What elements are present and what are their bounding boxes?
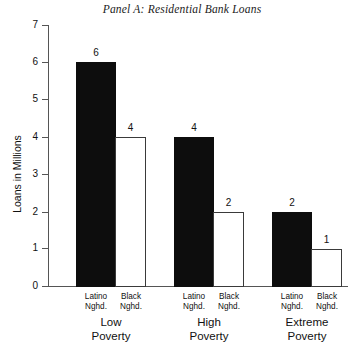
bar-value-high-poverty-black: 2 [213, 197, 244, 208]
y-tick-7 [42, 25, 49, 26]
group-caption-line1: Low [66, 316, 156, 330]
y-tick-2 [42, 212, 49, 213]
y-tick-label-3: 3 [20, 168, 38, 179]
bar-caption-line1: Black [302, 292, 352, 302]
bar-high-poverty-black[interactable] [213, 212, 244, 287]
group-caption-line1: Extreme [262, 316, 352, 330]
bar-caption-line2: Nghd. [302, 302, 352, 312]
bar-extreme-poverty-black[interactable] [311, 249, 342, 287]
bar-caption-line2: Nghd. [106, 302, 156, 312]
bar-caption-extreme-poverty-black: Black Nghd. [302, 292, 352, 311]
bar-value-extreme-poverty-black: 1 [311, 234, 342, 245]
y-tick-label-4: 4 [20, 131, 38, 142]
bar-low-poverty-black[interactable] [115, 137, 146, 287]
group-caption-line2: Poverty [164, 330, 254, 344]
bar-value-low-poverty-black: 4 [115, 122, 146, 133]
chart-canvas: Panel A: Residential Bank Loans Loans in… [0, 0, 364, 350]
group-caption-low-poverty: Low Poverty [66, 316, 156, 343]
group-caption-high-poverty: High Poverty [164, 316, 254, 343]
y-tick-4 [42, 137, 49, 138]
y-tick-label-6: 6 [20, 56, 38, 67]
bar-extreme-poverty-latino[interactable] [272, 212, 312, 287]
y-tick-label-0: 0 [20, 280, 38, 291]
bar-value-high-poverty-latino: 4 [174, 122, 214, 133]
chart-title: Panel A: Residential Bank Loans [0, 3, 364, 15]
y-tick-6 [42, 62, 49, 63]
bar-caption-line2: Nghd. [204, 302, 254, 312]
bar-value-extreme-poverty-latino: 2 [272, 197, 312, 208]
y-tick-3 [42, 174, 49, 175]
group-caption-line2: Poverty [262, 330, 352, 344]
y-tick-5 [42, 99, 49, 100]
group-caption-line2: Poverty [66, 330, 156, 344]
bar-caption-low-poverty-black: Black Nghd. [106, 292, 156, 311]
y-tick-label-7: 7 [20, 19, 38, 30]
y-tick-0 [42, 286, 49, 287]
bar-high-poverty-latino[interactable] [174, 137, 214, 287]
bar-caption-line1: Black [204, 292, 254, 302]
y-tick-1 [42, 248, 49, 249]
bar-value-low-poverty-latino: 6 [76, 47, 116, 58]
y-tick-label-2: 2 [20, 206, 38, 217]
group-caption-line1: High [164, 316, 254, 330]
bar-low-poverty-latino[interactable] [76, 62, 116, 287]
bar-caption-high-poverty-black: Black Nghd. [204, 292, 254, 311]
group-caption-extreme-poverty: Extreme Poverty [262, 316, 352, 343]
bar-caption-line1: Black [106, 292, 156, 302]
y-tick-label-5: 5 [20, 93, 38, 104]
y-tick-label-1: 1 [20, 242, 38, 253]
